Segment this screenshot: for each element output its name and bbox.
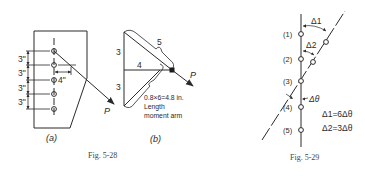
- panel-label-b: (b): [150, 134, 161, 144]
- spacing-label: 3": [18, 68, 26, 78]
- side-label-3-upper: 3: [116, 47, 121, 57]
- moment-arm-text-length: Length: [144, 103, 165, 111]
- figure-caption-5-29: Fig. 5-29: [290, 153, 319, 162]
- side-label-4: 4: [137, 60, 142, 70]
- fig-5-28-a-labels: 3" 3" 3" 3" 4" P (a): [18, 54, 110, 143]
- figure-canvas: 3" 3" 3" 3" 4" P (a) 3 3 4 5 P 0.8×6=4.8…: [0, 0, 365, 176]
- displaced-bolt: [311, 60, 316, 65]
- bolt-label-1: (1): [283, 30, 293, 39]
- spacing-label: 3": [18, 54, 26, 64]
- bolt-label-4: (4): [283, 103, 293, 112]
- dtheta-label: Δθ: [308, 94, 320, 104]
- bolt: [299, 105, 304, 110]
- load-label: P: [104, 106, 110, 116]
- brace-hypotenuse: [124, 30, 174, 70]
- bolt-label-3: (3): [283, 77, 293, 86]
- fig-5-28-panel-a: [26, 31, 114, 128]
- delta1-label: Δ1: [311, 16, 322, 26]
- fig-5-28-b-labels: 3 3 4 5 P 0.8×6=4.8 in. Length moment ar…: [116, 37, 196, 144]
- figure-caption-5-28: Fig. 5-28: [88, 151, 117, 160]
- equation-delta1: Δ1=6Δθ: [322, 109, 353, 119]
- bolt-label-2: (2): [283, 55, 293, 64]
- load-label-b: P: [190, 70, 196, 80]
- delta1-dimension: [303, 26, 326, 31]
- bolt: [299, 32, 304, 37]
- spacing-label: 3": [18, 97, 26, 107]
- moment-arm-text: moment arm: [144, 112, 182, 119]
- offset-label: 4": [58, 75, 66, 85]
- side-label-5: 5: [157, 37, 162, 47]
- bolt: [299, 57, 304, 62]
- moment-arm-formula: 0.8×6=4.8 in.: [144, 94, 184, 101]
- bolt: [299, 79, 304, 84]
- panel-label-a: (a): [46, 133, 57, 143]
- displaced-bolt: [324, 40, 329, 45]
- spacing-label: 3": [18, 83, 26, 93]
- delta2-label: Δ2: [306, 40, 317, 50]
- bolt: [299, 128, 304, 133]
- equation-delta2: Δ2=3Δθ: [322, 123, 353, 133]
- fig-5-29-labels: (1) (2) (3) (4) (5) Δ1 Δ2 Δθ Δ1=6Δθ Δ2=3…: [283, 16, 353, 135]
- bolt-label-5: (5): [283, 126, 293, 135]
- side-label-3-lower: 3: [116, 82, 121, 92]
- rotated-bolt-line: [262, 11, 345, 140]
